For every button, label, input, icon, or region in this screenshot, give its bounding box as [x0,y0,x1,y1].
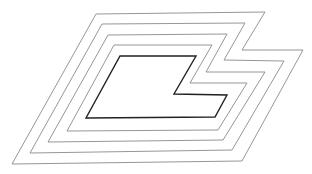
nested-outlines-svg [0,0,312,174]
diagram-canvas [0,0,312,174]
outline-5-inner [86,56,227,118]
outline-2 [30,23,284,153]
outline-3 [48,34,265,142]
